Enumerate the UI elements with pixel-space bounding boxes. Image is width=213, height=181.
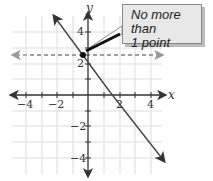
callout-text: No more than: [131, 8, 201, 36]
callout-text: 1 point: [131, 36, 201, 50]
x-tick-label: −4: [17, 98, 33, 111]
chart: y x −4 −2 2 4 4 2 −2 −4 No more than 1 p…: [0, 0, 213, 181]
callout-box: No more than 1 point: [122, 4, 202, 44]
y-tick-label: −4: [70, 152, 86, 165]
x-axis-label: x: [168, 88, 175, 102]
x-tick-label: 2: [116, 98, 123, 111]
y-tick-label: 4: [77, 25, 84, 38]
x-tick-label: 4: [147, 98, 154, 111]
y-axis-label: y: [85, 1, 93, 15]
y-tick-label: 2: [77, 57, 84, 70]
x-tick-label: −2: [48, 98, 64, 111]
y-tick-label: −2: [70, 120, 86, 133]
